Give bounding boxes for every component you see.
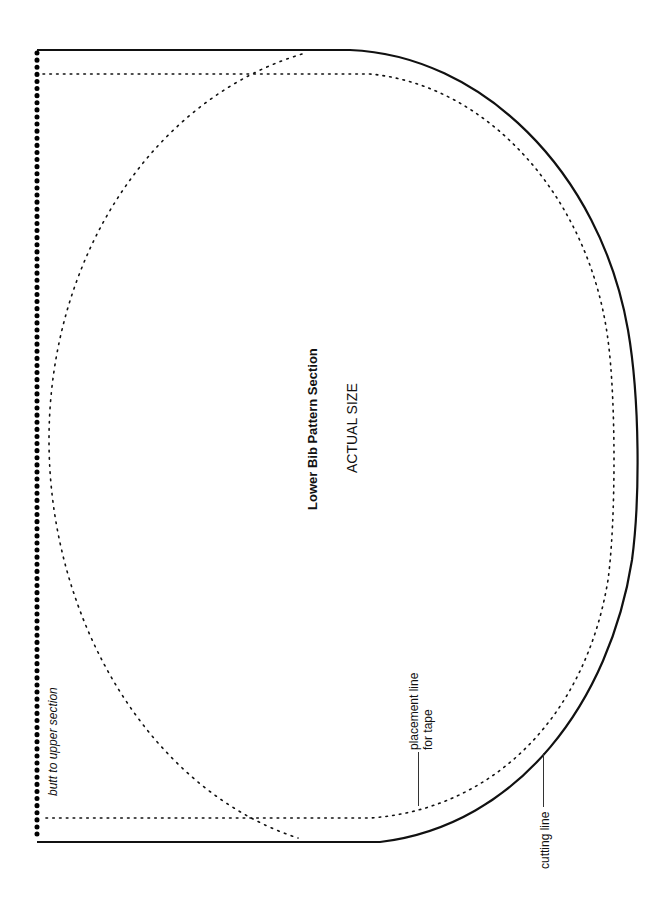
placement-label-line1: placement line [407,673,421,750]
cutting-line-label: cutting line [538,812,552,869]
oval-guide-line [49,54,302,838]
cutting-leader-line [543,753,544,807]
placement-line-label: placement line for tape [407,673,435,750]
butt-edge-label: butt to upper section [46,687,60,796]
pattern-drawing [0,0,670,917]
pattern-title: Lower Bib Pattern Section [305,348,320,510]
placement-leader-line [418,752,419,806]
scale-label: ACTUAL SIZE [344,383,360,473]
placement-label-line2: for tape [421,673,435,750]
placement-line [43,74,614,818]
